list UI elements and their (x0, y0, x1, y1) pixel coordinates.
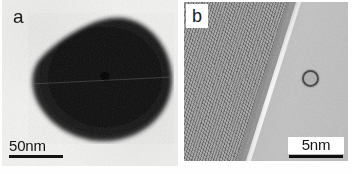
scalebar-b-label: 5nm (291, 137, 341, 153)
scalebar-b-plaque: 5nm (288, 137, 344, 154)
scalebar-b: 5nm (288, 137, 344, 158)
tem-figure: a 50nm b 5nm (0, 0, 352, 174)
scalebar-a-label: 50nm (9, 138, 73, 153)
scalebar-b-bar (289, 155, 343, 158)
scalebar-a-bar (9, 155, 63, 158)
nanoparticle-a (28, 13, 174, 144)
panel-label-a: a (13, 7, 24, 26)
panel-label-b: b (186, 4, 208, 28)
panel-b-hrtem-image: b 5nm (184, 2, 348, 161)
scalebar-a: 50nm (9, 138, 73, 158)
panel-a-tem-image: a 50nm (2, 0, 178, 166)
